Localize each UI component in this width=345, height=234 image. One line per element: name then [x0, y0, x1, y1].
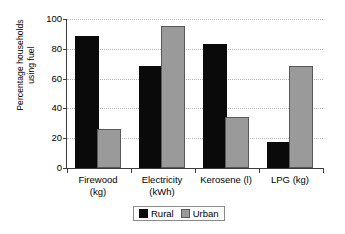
bar-rural: [203, 44, 227, 168]
y-tick-mark: [63, 138, 67, 139]
bar-urban: [225, 117, 249, 168]
y-tick-label: 20: [22, 133, 62, 143]
legend-item: Urban: [181, 209, 219, 219]
y-tick-mark: [63, 79, 67, 80]
black-square-swatch: [139, 209, 148, 218]
bar-group: [75, 19, 119, 168]
y-tick-label: 80: [22, 44, 62, 54]
legend-label: Rural: [151, 209, 174, 219]
y-tick-mark: [63, 19, 67, 20]
bar-chart: Percentage households using fuel 0204060…: [0, 0, 345, 234]
x-tick-mark: [195, 168, 196, 173]
bar-urban: [97, 129, 121, 168]
bar-urban: [289, 66, 313, 168]
y-axis-tick-labels: 020406080100: [18, 19, 62, 168]
bar-rural: [267, 142, 291, 168]
legend-label: Urban: [193, 209, 219, 219]
bar-group: [267, 19, 311, 168]
bar-urban: [161, 26, 185, 168]
x-tick-mark: [259, 168, 260, 173]
bar-rural: [139, 66, 163, 168]
bar-group: [203, 19, 247, 168]
y-tick-label: 100: [22, 14, 62, 24]
x-category-label: LPG (kg): [250, 174, 330, 186]
x-tick-mark: [323, 168, 324, 173]
y-tick-label: 0: [22, 163, 62, 173]
bar-group: [139, 19, 183, 168]
plot-area: [66, 19, 323, 169]
legend-item: Rural: [139, 209, 174, 219]
gray-square-swatch: [181, 209, 190, 218]
y-tick-label: 40: [22, 104, 62, 114]
y-tick-mark: [63, 108, 67, 109]
chart-legend: RuralUrban: [133, 206, 225, 221]
x-tick-mark: [131, 168, 132, 173]
y-tick-mark: [63, 49, 67, 50]
bar-rural: [75, 36, 99, 168]
x-tick-mark: [67, 168, 68, 173]
y-tick-label: 60: [22, 74, 62, 84]
x-axis-category-labels: Firewood (kg)Electricity (kWh)Kerosene (…: [66, 174, 322, 208]
